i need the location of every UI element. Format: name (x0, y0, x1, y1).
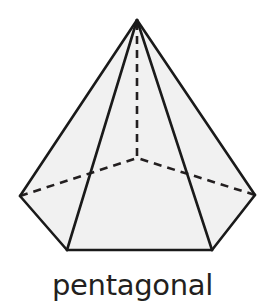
pentagonal-pyramid-diagram (0, 0, 265, 303)
figure-container: pentagonal (0, 0, 265, 303)
figure-caption: pentagonal (0, 269, 265, 301)
